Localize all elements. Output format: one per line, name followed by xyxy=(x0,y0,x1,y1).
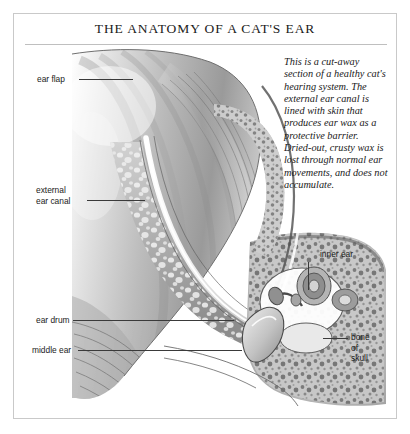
label-bone-of-skull-line3: skull xyxy=(351,353,368,363)
leader-line-bone-of-skull xyxy=(323,338,348,339)
label-bone-of-skull-line2: of xyxy=(351,343,358,353)
label-inner-ear: inner ear xyxy=(320,249,353,260)
label-middle-ear: middle ear xyxy=(32,345,71,356)
label-ear-drum: ear drum xyxy=(36,315,70,326)
leader-line-middle-ear xyxy=(78,350,242,351)
cochlea xyxy=(297,267,331,305)
label-bone-of-skull-line1: bone xyxy=(351,332,370,342)
title-divider xyxy=(25,44,387,45)
illustration-plate: THE ANATOMY OF A CAT'S EAR xyxy=(13,13,397,419)
label-external-ear-canal: external ear canal xyxy=(36,185,70,206)
label-bone-of-skull: bone of skull xyxy=(351,332,370,364)
leader-line-external-ear-canal xyxy=(87,200,145,201)
label-external-ear-canal-line1: external xyxy=(36,185,66,195)
leader-line-ear-flap xyxy=(79,79,133,80)
caption-text: This is a cut-away section of a healthy … xyxy=(284,56,388,191)
leader-line-inner-ear xyxy=(308,262,309,290)
label-external-ear-canal-line2: ear canal xyxy=(36,196,70,206)
label-ear-flap: ear flap xyxy=(37,74,65,85)
page-title: THE ANATOMY OF A CAT'S EAR xyxy=(14,21,396,37)
leader-line-ear-drum xyxy=(73,320,234,321)
